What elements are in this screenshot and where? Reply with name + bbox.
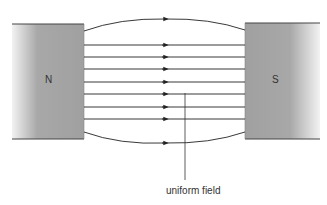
magnetic-field-diagram [0,0,327,205]
field-lines [84,19,245,143]
south-pole-label: S [272,74,279,85]
south-magnet [245,23,320,139]
north-pole-label: N [45,74,52,85]
uniform-field-label: uniform field [166,185,220,196]
